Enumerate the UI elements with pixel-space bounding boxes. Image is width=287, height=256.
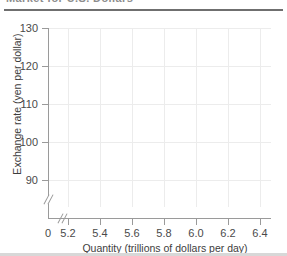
gridline-horizontal xyxy=(48,66,271,67)
cropped-header-text: Market for U.S. Dollars xyxy=(6,0,133,4)
y-axis-title: Exchange rate (yen per dollar) xyxy=(11,29,23,179)
gridline-vertical xyxy=(196,28,197,207)
x-tick-label-6-4: 6.4 xyxy=(245,228,275,239)
x-tick-label-5-6: 5.6 xyxy=(117,228,147,239)
y-axis-break-icon xyxy=(42,194,56,208)
x-axis-break-icon xyxy=(58,212,72,226)
y-tick-mark xyxy=(42,142,49,143)
x-tick-mark xyxy=(132,219,133,225)
x-tick-mark xyxy=(228,219,229,225)
x-tick-mark xyxy=(164,219,165,225)
y-tick-mark xyxy=(42,28,49,29)
gridline-vertical xyxy=(132,28,133,207)
x-tick-label-5-8: 5.8 xyxy=(149,228,179,239)
chart-figure: 130 120 110 100 90 0 5.2 5.4 5.6 5.8 6.0… xyxy=(0,12,287,256)
x-tick-mark xyxy=(68,219,69,225)
x-tick-label-6-2: 6.2 xyxy=(213,228,243,239)
plot-area xyxy=(48,28,271,207)
gridline-vertical xyxy=(260,28,261,207)
y-axis-line xyxy=(48,28,49,196)
gridline-horizontal xyxy=(48,104,271,105)
x-tick-label-6-0: 6.0 xyxy=(181,228,211,239)
gridline-vertical xyxy=(164,28,165,207)
y-tick-mark xyxy=(42,180,49,181)
y-tick-mark xyxy=(42,104,49,105)
x-tick-label-5-4: 5.4 xyxy=(85,228,115,239)
x-tick-mark xyxy=(260,219,261,225)
header-divider-rule xyxy=(4,9,283,11)
y-tick-mark xyxy=(42,66,49,67)
gridline-horizontal xyxy=(48,142,271,143)
x-axis-line xyxy=(48,218,271,219)
gridline-vertical xyxy=(100,28,101,207)
x-tick-mark xyxy=(100,219,101,225)
gridline-vertical xyxy=(228,28,229,207)
x-tick-label-5-2: 5.2 xyxy=(53,228,83,239)
gridline-vertical xyxy=(68,28,69,207)
gridline-horizontal xyxy=(48,180,271,181)
x-tick-mark xyxy=(196,219,197,225)
gridline-horizontal xyxy=(48,28,271,29)
